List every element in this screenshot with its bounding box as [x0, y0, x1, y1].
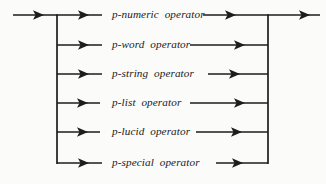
node-label-p-special: p-special operator: [111, 156, 200, 168]
railroad-diagram: p-numeric operator p-word operator p-str…: [0, 0, 326, 184]
node-label-p-list: p-list operator: [111, 96, 182, 108]
node-label-p-string: p-string operator: [111, 67, 195, 79]
node-label-p-lucid: p-lucid operator: [111, 125, 191, 137]
node-label-p-numeric: p-numeric operator: [111, 8, 205, 20]
railroad-diagram-canvas: p-numeric operator p-word operator p-str…: [0, 0, 326, 184]
node-label-p-word: p-word operator: [111, 38, 191, 50]
